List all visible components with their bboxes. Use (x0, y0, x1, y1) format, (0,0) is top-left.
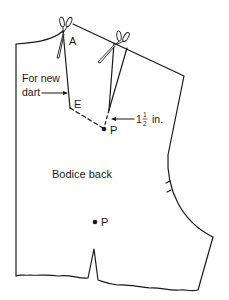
label-measurement-unit: in. (152, 113, 163, 125)
label-for-new-line1: For new (22, 72, 60, 84)
label-measurement-num: 1 (143, 111, 147, 118)
armhole-notch-2 (167, 190, 171, 192)
arrowhead-measurement (111, 117, 116, 121)
point-p-dart-dot (102, 127, 107, 132)
label-for-new-line2: dart (22, 86, 40, 98)
armhole-notch-1 (166, 181, 170, 183)
dashed-e-p (70, 108, 103, 128)
label-measurement-whole: 1 (136, 113, 142, 125)
label-bodice-back: Bodice back (52, 168, 112, 180)
pattern-outline (16, 24, 213, 291)
label-measurement-den: 2 (143, 120, 147, 127)
arrowhead-new-dart (63, 91, 68, 95)
label-point-p-lower: P (101, 216, 108, 228)
point-p-lower-dot (93, 220, 98, 225)
label-point-a: A (69, 35, 77, 47)
label-point-e: E (74, 98, 81, 110)
scissors-icon-shoulder (98, 31, 130, 63)
dashed-dart-extension (104, 110, 109, 128)
label-point-p-dart: P (110, 124, 117, 136)
bodice-back-pattern: A For new dart E P 1 1 2 in. Bodice back… (0, 0, 229, 300)
